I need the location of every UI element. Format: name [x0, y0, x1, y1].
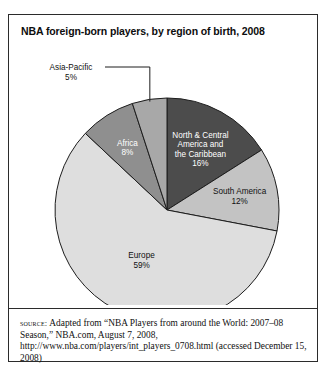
pie-chart: North & CentralAmerica andthe Caribbean1… — [9, 45, 317, 305]
callout-leader-line — [105, 67, 150, 102]
figure-panel: NBA foreign-born players, by region of b… — [8, 14, 318, 362]
pie-chart-svg: North & CentralAmerica andthe Caribbean1… — [9, 45, 317, 305]
pie-callout-label: Asia-Pacific5% — [50, 63, 93, 82]
pie-callouts — [105, 67, 150, 102]
source-label: source: — [20, 318, 47, 328]
source-divider — [9, 308, 317, 309]
source-note: source: Adapted from “NBA Players from a… — [20, 318, 308, 364]
source-text: Adapted from “NBA Players from around th… — [20, 318, 307, 363]
page-title: NBA foreign-born players, by region of b… — [21, 25, 311, 37]
